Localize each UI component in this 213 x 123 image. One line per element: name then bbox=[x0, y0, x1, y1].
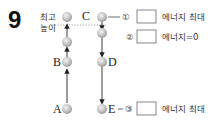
ball-a bbox=[62, 104, 72, 114]
answer-box-1[interactable] bbox=[137, 10, 156, 23]
ball-d bbox=[97, 57, 107, 67]
label-c: C bbox=[82, 9, 90, 23]
label-b: B bbox=[53, 55, 61, 69]
ball-b bbox=[62, 57, 72, 67]
ball-c bbox=[97, 12, 107, 22]
label-a: A bbox=[53, 102, 62, 116]
marker-3: ③ bbox=[125, 104, 133, 114]
answer-box-2[interactable] bbox=[137, 30, 156, 43]
ball-upper-left bbox=[62, 37, 72, 47]
apex-label-line1: 최고 bbox=[40, 12, 56, 22]
answer-text-3: 에너지 최대 bbox=[162, 104, 205, 114]
motion-diagram: 최고 높이 C B A D E ① 에너지 최대 ② 에너지=0 ③ 에너지 최… bbox=[0, 0, 213, 123]
ball-upper-right bbox=[97, 28, 107, 38]
answer-box-3[interactable] bbox=[137, 102, 156, 115]
label-e: E bbox=[108, 102, 115, 116]
answer-text-2: 에너지=0 bbox=[162, 32, 199, 42]
apex-label-line2: 높이 bbox=[40, 23, 56, 33]
answer-text-1: 에너지 최대 bbox=[162, 12, 205, 22]
marker-2: ② bbox=[126, 32, 134, 42]
marker-1: ① bbox=[122, 12, 130, 22]
ball-e bbox=[97, 104, 107, 114]
ball-apex bbox=[62, 12, 72, 22]
label-d: D bbox=[108, 55, 117, 69]
